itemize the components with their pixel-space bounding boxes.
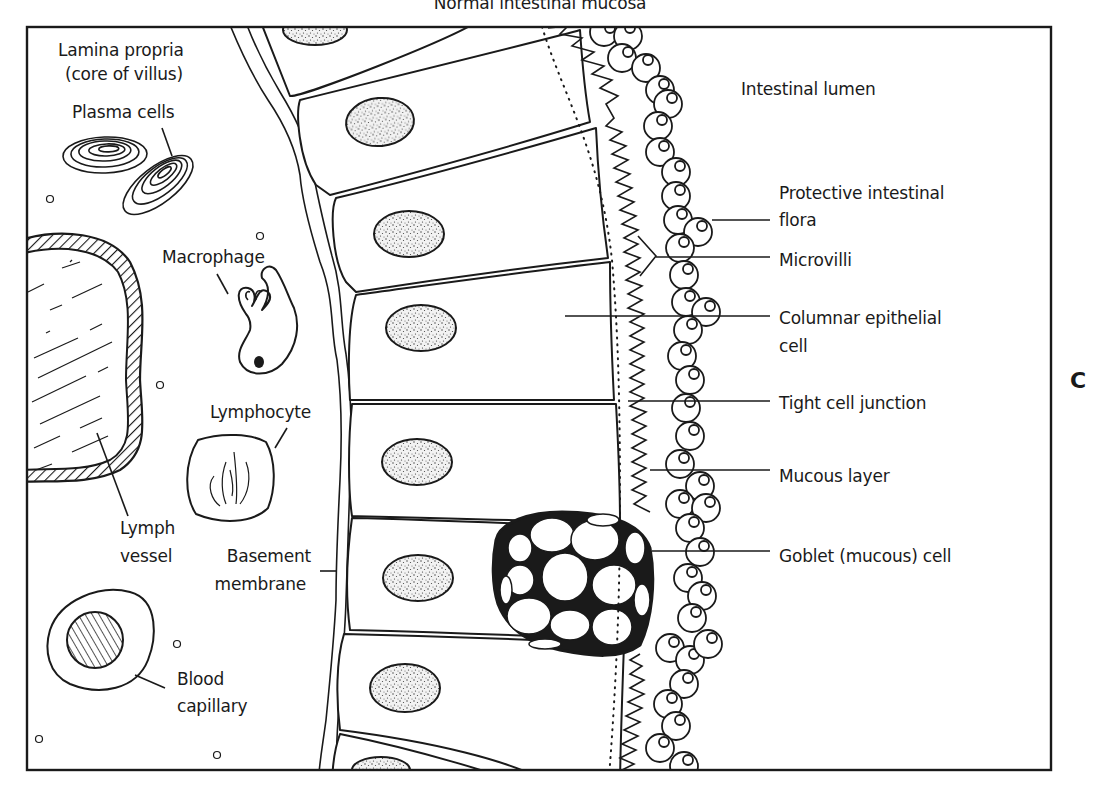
label-basement-membrane: Basement xyxy=(227,546,312,566)
intestinal-mucosa-diagram: Normal intestinal mucosa C xyxy=(0,0,1093,791)
lymph-vessel xyxy=(20,234,143,482)
right-labels: Intestinal lumen Protective intestinal f… xyxy=(741,79,951,566)
blood-capillary xyxy=(47,590,153,690)
label-macrophage: Macrophage xyxy=(162,247,265,267)
epithelial-cells xyxy=(260,15,624,790)
lymphocyte xyxy=(187,435,274,521)
label-lymph-vessel-sub: vessel xyxy=(120,546,172,566)
label-blood-capillary-sub: capillary xyxy=(177,696,248,716)
label-columnar-epithelial-cell: Columnar epithelial xyxy=(779,308,942,328)
label-protective-flora: Protective intestinal xyxy=(779,183,944,203)
figure-title: Normal intestinal mucosa xyxy=(434,0,647,13)
label-intestinal-lumen: Intestinal lumen xyxy=(741,79,876,99)
label-lymphocyte: Lymphocyte xyxy=(210,402,311,422)
label-plasma-cells: Plasma cells xyxy=(72,102,175,122)
label-goblet-cell: Goblet (mucous) cell xyxy=(779,546,951,566)
plasma-cell xyxy=(62,136,147,175)
plasma-cell xyxy=(114,145,202,225)
macrophage xyxy=(239,267,297,374)
label-mucous-layer: Mucous layer xyxy=(779,466,890,486)
microvilli-bracket xyxy=(638,236,656,276)
label-lymph-vessel: Lymph xyxy=(120,518,175,538)
label-basement-membrane-sub: membrane xyxy=(215,574,306,594)
label-blood-capillary: Blood xyxy=(177,669,224,689)
label-lamina-propria-sub: (core of villus) xyxy=(65,64,183,84)
label-tight-cell-junction: Tight cell junction xyxy=(778,393,926,413)
panel-letter: C xyxy=(1070,368,1086,393)
label-microvilli: Microvilli xyxy=(779,250,852,270)
label-columnar-epithelial-cell-sub: cell xyxy=(779,336,807,356)
label-protective-flora-sub: flora xyxy=(779,210,817,230)
label-lamina-propria: Lamina propria xyxy=(58,40,184,60)
